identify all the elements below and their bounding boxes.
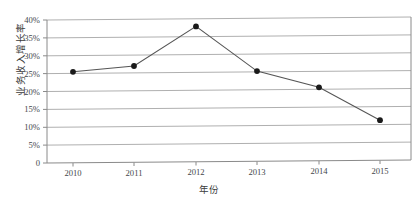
- y-tick-label: 10%: [24, 122, 40, 132]
- data-point[interactable]: [70, 69, 76, 75]
- x-tick-label: 2010: [64, 168, 81, 178]
- x-tick-label: 2011: [126, 168, 143, 178]
- x-tick-label: 2012: [187, 167, 204, 177]
- x-tick-label: 2015: [371, 166, 388, 176]
- data-point[interactable]: [131, 63, 137, 69]
- data-point[interactable]: [316, 84, 322, 90]
- y-axis-title: 业务收入增长率: [13, 9, 27, 109]
- y-tick-marks: [43, 20, 47, 163]
- x-tick-labels: 2010 2011 2012 2013 2014 2015: [64, 166, 388, 178]
- gridlines: [47, 17, 411, 145]
- y-tick-label: 5%: [29, 140, 40, 150]
- data-point[interactable]: [377, 117, 383, 123]
- x-tick-label: 2013: [248, 167, 265, 177]
- data-point[interactable]: [193, 24, 199, 30]
- line-chart-plot: 0 5% 10% 15% 20% 25% 30% 35% 40% 2010 20…: [0, 0, 418, 203]
- chart-figure: 0 5% 10% 15% 20% 25% 30% 35% 40% 2010 20…: [0, 0, 418, 203]
- data-point[interactable]: [254, 68, 260, 74]
- x-tick-label: 2014: [310, 166, 328, 176]
- y-tick-label: 0: [36, 158, 40, 168]
- x-axis-title: 年份: [0, 182, 418, 196]
